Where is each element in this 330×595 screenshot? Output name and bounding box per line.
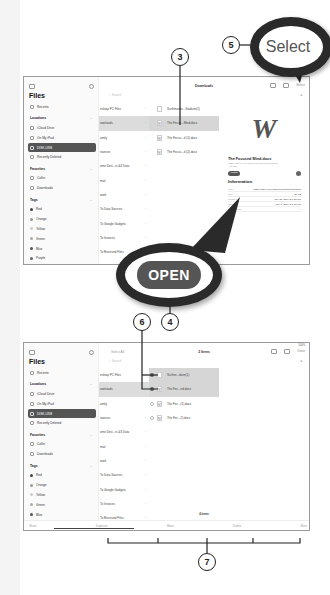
sidebar-section-header[interactable]: Locations⌄ (28, 379, 96, 389)
chevron-right-icon: › (145, 150, 146, 154)
tag-dot-icon (30, 503, 33, 506)
sidebar-item[interactable]: Green (28, 234, 96, 244)
checkmark-circle-icon[interactable] (150, 387, 154, 391)
sidebar-item[interactable]: Purple (28, 253, 96, 263)
file-row[interactable]: WThe Focus...d (2).docx (149, 145, 219, 159)
file-row[interactable]: Surfinn...dium(1) (149, 368, 219, 382)
sidebar-item[interactable]: iCloud Drive (28, 123, 96, 133)
sidebar-item[interactable]: Recents (28, 102, 96, 112)
file-row[interactable]: WThe Focus...d (1).docx (149, 131, 219, 145)
sidebar-item[interactable]: On My iPad (28, 399, 96, 409)
sidebar-item[interactable]: Blue (28, 510, 96, 520)
sidebar-section-header[interactable]: Tags⌄ (28, 461, 96, 471)
magnified-open-callout: OPEN (116, 243, 222, 307)
sort-icon[interactable]: ⇅ (300, 359, 303, 363)
view-toggle-icon[interactable] (283, 83, 289, 88)
sidebar-item-label: Red (36, 473, 42, 477)
more-options-icon[interactable] (89, 350, 94, 355)
folder-row[interactable]: esktop PC Files› (99, 102, 149, 116)
sidebar-item[interactable]: Collin (28, 440, 96, 450)
folder-row[interactable]: amily› (99, 131, 149, 145)
folder-row[interactable]: ownloads› (99, 116, 149, 130)
folder-row[interactable]: inances› (99, 145, 149, 159)
folder-row[interactable]: amily› (99, 397, 149, 411)
sidebar-item[interactable]: Downloads (28, 449, 96, 459)
search-input[interactable]: ⌕ Search (109, 93, 169, 97)
folder-row[interactable]: To Invoices› (99, 497, 149, 511)
file-row[interactable]: WThe Foc...(1).docx (149, 397, 219, 411)
sidebar-toggle-icon[interactable] (29, 350, 35, 355)
sidebar-item[interactable]: Blue (28, 244, 96, 254)
folder-row[interactable]: inances› (99, 411, 149, 425)
info-value: Office Open XML word processing document (254, 188, 301, 191)
chevron-down-icon[interactable]: ⌄ (90, 382, 93, 386)
sidebar-item[interactable]: Orange (28, 214, 96, 224)
folder-row[interactable]: mail› (99, 173, 149, 187)
folder-row[interactable]: To Google Gadgets› (99, 482, 149, 496)
column-files: Surfinn...dium(1)WThe Foc...nd.docxWThe … (149, 368, 219, 425)
folder-name: To Received Files (100, 250, 124, 254)
sidebar-section-header[interactable]: Favorites⌄ (28, 430, 96, 440)
chevron-down-icon[interactable]: ⌄ (90, 464, 93, 468)
select-button[interactable]: Select (296, 83, 305, 87)
file-row[interactable]: WThe Foc...2).docx (149, 411, 219, 425)
sidebar-section-header[interactable]: Locations⌄ (28, 113, 96, 123)
folder-name: esktop PC Files (100, 107, 121, 111)
folder-row[interactable]: To Data Sources› (99, 202, 149, 216)
search-input[interactable]: ⌕ Search (109, 359, 169, 363)
folder-row[interactable]: work› (99, 188, 149, 202)
toolbar-move-button[interactable]: Move (167, 524, 174, 528)
open-button-small[interactable]: OPEN (228, 171, 240, 176)
toolbar-share-button[interactable]: Share (29, 524, 36, 528)
chevron-down-icon[interactable]: ⌄ (90, 116, 93, 120)
folder-row[interactable]: esktop PC Files› (99, 368, 149, 382)
empty-circle-icon[interactable] (150, 402, 154, 406)
chevron-down-icon[interactable]: ⌄ (90, 433, 93, 437)
toolbar-delete-button[interactable]: Delete (233, 524, 241, 528)
sidebar-toggle-icon[interactable] (29, 84, 35, 89)
sidebar-item[interactable]: Red (28, 470, 96, 480)
file-row[interactable]: Surfinnowlo...Stadium(1) (149, 102, 219, 116)
sidebar-item[interactable]: Yellow (28, 490, 96, 500)
sidebar-item[interactable]: Recents (28, 368, 96, 378)
sidebar-item[interactable]: Downloads (28, 183, 96, 193)
chevron-down-icon[interactable]: ⌄ (90, 198, 93, 202)
sidebar-item[interactable]: Green (28, 500, 96, 510)
more-options-icon[interactable] (89, 84, 94, 89)
toolbar-more-button[interactable]: More (301, 524, 307, 528)
view-toggle-icon[interactable] (284, 349, 290, 354)
folder-row[interactable]: mail› (99, 439, 149, 453)
clock-icon (30, 371, 34, 375)
folder-row[interactable]: To Google Gadgets› (99, 216, 149, 230)
sidebar-item[interactable]: Recently Deleted (28, 152, 96, 162)
file-row[interactable]: WThe Foc...nd.docx (149, 382, 219, 396)
sidebar-item[interactable]: Red (28, 204, 96, 214)
more-actions-icon[interactable] (296, 171, 301, 176)
sidebar-item[interactable]: DISK-USB (28, 143, 96, 153)
sidebar-section-header[interactable]: Favorites⌄ (28, 164, 96, 174)
trash-icon (30, 155, 34, 159)
folder-row[interactable]: To Invoices› (99, 231, 149, 245)
folder-row[interactable]: ome Desi...ts &3 Data› (99, 159, 149, 173)
sidebar-item[interactable]: On My iPad (28, 133, 96, 143)
chevron-down-icon[interactable]: ⌄ (90, 167, 93, 171)
sort-icon[interactable]: ⇅ (300, 93, 303, 97)
sidebar-item[interactable]: iCloud Drive (28, 389, 96, 399)
sidebar-item[interactable]: Recently Deleted (28, 418, 96, 428)
file-row[interactable]: WThe Focus...Mind.docx (149, 116, 219, 130)
sidebar-item[interactable]: Collin (28, 174, 96, 184)
checkmark-circle-icon[interactable] (150, 373, 154, 377)
toolbar-duplicate-button[interactable]: Duplicate (96, 524, 108, 528)
new-folder-icon[interactable] (270, 83, 276, 88)
new-folder-icon[interactable] (271, 349, 277, 354)
folder-row[interactable]: ome Desi...ts &3 Data› (99, 425, 149, 439)
folder-row[interactable]: To Data Sources› (99, 468, 149, 482)
folder-row[interactable]: work› (99, 454, 149, 468)
sidebar-section-header[interactable]: Tags⌄ (28, 195, 96, 205)
sidebar-item[interactable]: DISK-USB (28, 409, 96, 419)
done-button[interactable]: Done (297, 349, 305, 353)
empty-circle-icon[interactable] (150, 416, 154, 420)
sidebar-item[interactable]: Orange (28, 480, 96, 490)
sidebar-item[interactable]: Yellow (28, 224, 96, 234)
folder-row[interactable]: ownloads› (99, 382, 149, 396)
